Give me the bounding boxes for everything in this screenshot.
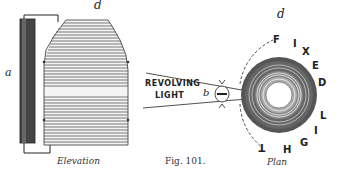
fixed-letter: L (320, 110, 327, 121)
caption-elevation: Elevation (57, 156, 100, 166)
fixed-letter: T (258, 142, 265, 153)
label-d-plan: d (277, 7, 285, 21)
label-d-elevation: d (94, 0, 102, 12)
fixed-letter: F (273, 34, 280, 45)
fixed-letter: D (318, 77, 327, 88)
fixed-letter: X (302, 46, 310, 57)
label-b: b (203, 87, 209, 98)
fixed-letter: I (314, 125, 318, 136)
figure-101: d a d b REVOLVING LIGHT F I X E D L I G … (0, 0, 340, 173)
fixed-letter: H (283, 144, 292, 155)
fixed-letter: E (312, 60, 319, 71)
caption-plan: Plan (267, 157, 287, 167)
caption-figure-number: Fig. 101. (165, 156, 206, 166)
revolving-label-line1: REVOLVING (145, 79, 200, 88)
fixed-letter: G (300, 137, 309, 148)
elevation-view (20, 15, 129, 153)
fixed-letter: I (293, 38, 297, 49)
label-a: a (5, 66, 12, 79)
revolving-label-line2: LIGHT (155, 91, 184, 100)
